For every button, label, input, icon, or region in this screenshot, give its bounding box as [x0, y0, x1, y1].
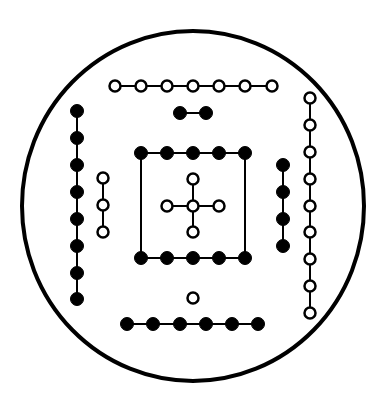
- filled-dot-icon: [277, 213, 290, 226]
- filled-dot-icon: [71, 213, 84, 226]
- center-cross-open-5: [162, 174, 225, 238]
- filled-dot-icon: [71, 132, 84, 145]
- filled-dot-icon: [71, 186, 84, 199]
- dot-groups: [71, 81, 316, 331]
- open-dot-icon: [188, 174, 199, 185]
- open-dot-icon: [267, 81, 278, 92]
- filled-dot-icon: [239, 252, 252, 265]
- filled-dot-icon: [147, 318, 160, 331]
- open-dot-icon: [162, 201, 173, 212]
- open-dot-icon: [188, 201, 199, 212]
- open-dot-icon: [305, 281, 316, 292]
- open-dot-icon: [188, 81, 199, 92]
- open-dot-icon: [305, 174, 316, 185]
- open-dot-icon: [305, 120, 316, 131]
- open-dot-icon: [98, 200, 109, 211]
- filled-dot-icon: [71, 105, 84, 118]
- filled-dot-icon: [277, 159, 290, 172]
- diagram-svg: [0, 0, 386, 406]
- filled-dot-icon: [135, 147, 148, 160]
- bottom-open-1: [188, 293, 199, 304]
- filled-dot-icon: [239, 147, 252, 160]
- filled-dot-icon: [187, 252, 200, 265]
- open-dot-icon: [110, 81, 121, 92]
- open-dot-icon: [305, 147, 316, 158]
- open-dot-icon: [240, 81, 251, 92]
- open-dot-icon: [188, 227, 199, 238]
- filled-dot-icon: [174, 107, 187, 120]
- filled-dot-icon: [226, 318, 239, 331]
- filled-dot-icon: [213, 252, 226, 265]
- open-dot-icon: [305, 254, 316, 265]
- filled-dot-icon: [252, 318, 265, 331]
- filled-dot-icon: [71, 293, 84, 306]
- filled-dot-icon: [161, 252, 174, 265]
- open-dot-icon: [162, 81, 173, 92]
- open-dot-icon: [305, 308, 316, 319]
- open-dot-icon: [305, 93, 316, 104]
- open-dot-icon: [98, 227, 109, 238]
- open-dot-icon: [188, 293, 199, 304]
- filled-dot-icon: [121, 318, 134, 331]
- filled-dot-icon: [213, 147, 226, 160]
- filled-dot-icon: [277, 240, 290, 253]
- filled-dot-icon: [187, 147, 200, 160]
- filled-dot-icon: [161, 147, 174, 160]
- open-dot-icon: [98, 173, 109, 184]
- filled-dot-icon: [71, 267, 84, 280]
- filled-dot-icon: [71, 159, 84, 172]
- open-dot-icon: [305, 201, 316, 212]
- open-dot-icon: [305, 227, 316, 238]
- hetu-diagram: [0, 0, 386, 406]
- filled-dot-icon: [135, 252, 148, 265]
- filled-dot-icon: [200, 107, 213, 120]
- open-dot-icon: [214, 81, 225, 92]
- open-dot-icon: [214, 201, 225, 212]
- filled-dot-icon: [200, 318, 213, 331]
- right-open-9: [305, 93, 316, 319]
- filled-dot-icon: [277, 186, 290, 199]
- left-open-3: [98, 173, 109, 238]
- filled-dot-icon: [174, 318, 187, 331]
- open-dot-icon: [136, 81, 147, 92]
- filled-dot-icon: [71, 240, 84, 253]
